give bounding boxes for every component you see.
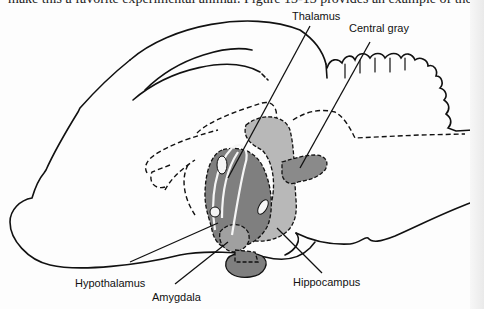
label-thalamus: Thalamus [292,10,340,22]
page-edge-shadow [470,0,484,309]
label-amygdala: Amygdala [152,291,201,303]
brain-diagram [0,0,484,309]
label-hippocampus: Hippocampus [293,276,360,288]
label-hypothalamus: Hypothalamus [75,277,145,289]
label-central-gray: Central gray [349,22,409,34]
